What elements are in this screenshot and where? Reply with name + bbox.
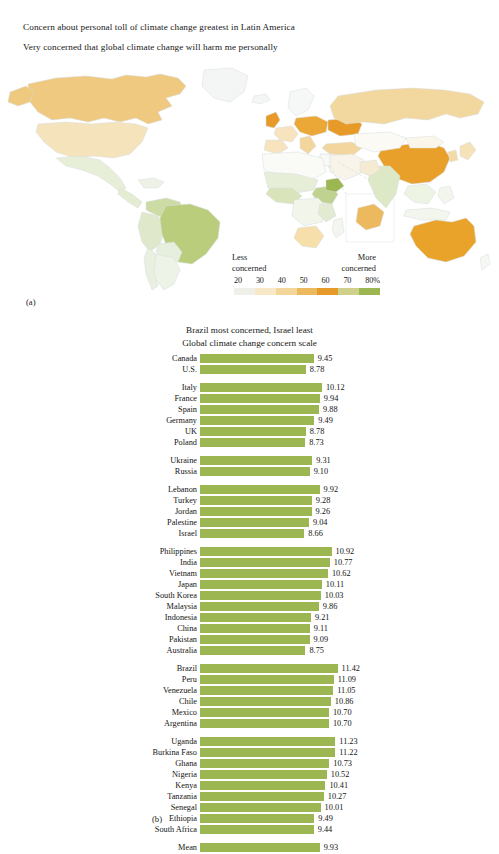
bar-value: 9.26 bbox=[316, 506, 331, 517]
bar-group-africa: Uganda11.23Burkina Faso11.22Ghana10.73Ni… bbox=[0, 737, 499, 835]
map-legend: Less concerned More concerned 2030405060… bbox=[232, 253, 382, 275]
bar-row[interactable]: Tanzania10.27 bbox=[0, 792, 499, 802]
legend-color-swatch-4 bbox=[317, 288, 338, 295]
bar-row[interactable]: Vietnam10.62 bbox=[0, 569, 499, 579]
bar-row[interactable]: Malaysia9.86 bbox=[0, 602, 499, 612]
bar-row[interactable]: Uganda11.23 bbox=[0, 737, 499, 747]
bar-track bbox=[200, 635, 310, 644]
bar-row[interactable]: South Africa9.44 bbox=[0, 825, 499, 835]
bar-value: 11.42 bbox=[342, 663, 360, 674]
bar-label: Peru bbox=[182, 674, 197, 685]
bar-row[interactable]: Jordan9.26 bbox=[0, 507, 499, 517]
bar-label: Canada bbox=[172, 353, 197, 364]
bar-fill bbox=[200, 485, 320, 494]
bar-track bbox=[200, 467, 310, 476]
bar-row[interactable]: Senegal10.01 bbox=[0, 803, 499, 813]
bar-row[interactable]: China9.11 bbox=[0, 624, 499, 634]
bar-value: 9.09 bbox=[314, 634, 329, 645]
legend-tick-6: 80% bbox=[365, 276, 380, 285]
bar-value: 10.41 bbox=[329, 780, 348, 791]
legend-colorbar bbox=[234, 288, 380, 295]
bar-row[interactable]: Mean9.93 bbox=[0, 843, 499, 853]
legend-tick-4: 60 bbox=[322, 276, 330, 285]
bar-fill bbox=[200, 467, 310, 476]
bar-row[interactable]: Nigeria10.52 bbox=[0, 770, 499, 780]
bar-value: 9.10 bbox=[314, 466, 329, 477]
bar-row[interactable]: Ghana10.73 bbox=[0, 759, 499, 769]
bar-row[interactable]: Russia9.10 bbox=[0, 467, 499, 477]
bar-value: 8.78 bbox=[310, 364, 325, 375]
bar-value: 10.52 bbox=[331, 769, 350, 780]
panel-b-label: (b) bbox=[152, 814, 162, 824]
bar-row[interactable]: France9.94 bbox=[0, 394, 499, 404]
legend-tick-2: 40 bbox=[278, 276, 286, 285]
legend-high-label: More concerned bbox=[342, 253, 376, 274]
bar-row[interactable]: U.S.8.78 bbox=[0, 365, 499, 375]
bar-track bbox=[200, 803, 321, 812]
bar-track bbox=[200, 529, 304, 538]
bar-value: 8.78 bbox=[310, 426, 325, 437]
bar-track bbox=[200, 405, 319, 414]
bar-label: Uganda bbox=[171, 736, 197, 747]
bar-group-eastern-europe: Ukraine9.31Russia9.10 bbox=[0, 456, 499, 477]
panel-b-bar-chart-figure: Brazil most concerned, Israel least Glob… bbox=[0, 318, 499, 833]
legend-color-swatch-0 bbox=[234, 288, 255, 295]
bar-fill bbox=[200, 781, 325, 790]
bar-value: 9.31 bbox=[316, 455, 331, 466]
bar-label: Vietnam bbox=[169, 568, 197, 579]
bar-fill bbox=[200, 580, 322, 589]
bar-track bbox=[200, 646, 305, 655]
bar-row[interactable]: Chile10.86 bbox=[0, 697, 499, 707]
bar-row[interactable]: Burkina Faso11.22 bbox=[0, 748, 499, 758]
bar-row[interactable]: Australia8.75 bbox=[0, 646, 499, 656]
bar-track bbox=[200, 697, 331, 706]
bar-label: India bbox=[180, 557, 197, 568]
bar-label: Indonesia bbox=[165, 612, 197, 623]
bar-value: 9.93 bbox=[324, 842, 339, 853]
bar-track bbox=[200, 591, 321, 600]
bar-track bbox=[200, 781, 325, 790]
bar-fill bbox=[200, 675, 334, 684]
bar-fill bbox=[200, 748, 335, 757]
bar-track bbox=[200, 518, 309, 527]
bar-row[interactable]: South Korea10.03 bbox=[0, 591, 499, 601]
bar-track bbox=[200, 427, 306, 436]
bar-row[interactable]: Peru11.09 bbox=[0, 675, 499, 685]
bar-value: 8.66 bbox=[308, 528, 323, 539]
bar-row[interactable]: Canada9.45 bbox=[0, 354, 499, 364]
bar-row[interactable]: Indonesia9.21 bbox=[0, 613, 499, 623]
legend-high-label-line2: concerned bbox=[342, 264, 376, 275]
bar-row[interactable]: Argentina10.70 bbox=[0, 719, 499, 729]
bar-track bbox=[200, 365, 306, 374]
bar-row[interactable]: India10.77 bbox=[0, 558, 499, 568]
bar-fill bbox=[200, 354, 314, 363]
bar-row[interactable]: Turkey9.28 bbox=[0, 496, 499, 506]
bar-chart-plot-area: Canada9.45U.S.8.78Italy10.12France9.94Sp… bbox=[0, 354, 499, 854]
bar-track bbox=[200, 843, 320, 852]
bar-row[interactable]: Philippines10.92 bbox=[0, 547, 499, 557]
bar-row[interactable]: UK8.78 bbox=[0, 427, 499, 437]
panel-a-map-figure: Concern about personal toll of climate c… bbox=[0, 0, 499, 318]
legend-low-label-line1: Less bbox=[232, 253, 266, 264]
bar-row[interactable]: Ukraine9.31 bbox=[0, 456, 499, 466]
bar-row[interactable]: Ethiopia9.49 bbox=[0, 814, 499, 824]
bar-row[interactable]: Germany9.49 bbox=[0, 416, 499, 426]
bar-row[interactable]: Mexico10.70 bbox=[0, 708, 499, 718]
bar-row[interactable]: Lebanon9.92 bbox=[0, 485, 499, 495]
bar-row[interactable]: Italy10.12 bbox=[0, 383, 499, 393]
bar-row[interactable]: Spain9.88 bbox=[0, 405, 499, 415]
bar-value: 10.03 bbox=[325, 590, 344, 601]
bar-row[interactable]: Israel8.66 bbox=[0, 529, 499, 539]
bar-value: 8.73 bbox=[309, 437, 324, 448]
map-title: Concern about personal toll of climate c… bbox=[23, 22, 295, 32]
bar-row[interactable]: Poland8.73 bbox=[0, 438, 499, 448]
bar-row[interactable]: Pakistan9.09 bbox=[0, 635, 499, 645]
bar-row[interactable]: Japan10.11 bbox=[0, 580, 499, 590]
bar-label: U.S. bbox=[182, 364, 197, 375]
bar-row[interactable]: Kenya10.41 bbox=[0, 781, 499, 791]
bar-row[interactable]: Brazil11.42 bbox=[0, 664, 499, 674]
bar-row[interactable]: Venezuela11.05 bbox=[0, 686, 499, 696]
legend-color-swatch-1 bbox=[255, 288, 276, 295]
bar-track bbox=[200, 792, 324, 801]
bar-row[interactable]: Palestine9.04 bbox=[0, 518, 499, 528]
